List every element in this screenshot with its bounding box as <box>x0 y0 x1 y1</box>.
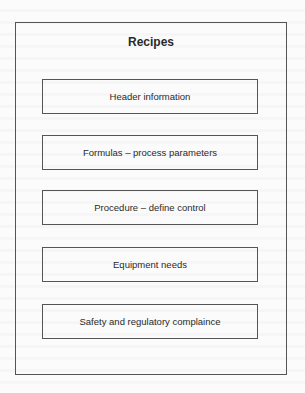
box-equipment-needs: Equipment needs <box>42 247 258 282</box>
box-header-information: Header information <box>42 79 258 114</box>
box-label: Equipment needs <box>113 259 187 270</box>
box-procedure-define-control: Procedure – define control <box>42 190 258 225</box>
page: Recipes Header information Formulas – pr… <box>0 0 305 393</box>
box-formulas-process-parameters: Formulas – process parameters <box>42 135 258 170</box>
recipes-container: Recipes Header information Formulas – pr… <box>15 22 287 375</box>
box-safety-regulatory-compliance: Safety and regulatory complaince <box>42 304 258 339</box>
box-label: Header information <box>110 91 191 102</box>
box-label: Procedure – define control <box>94 202 205 213</box>
box-label: Formulas – process parameters <box>83 147 217 158</box>
box-label: Safety and regulatory complaince <box>80 316 221 327</box>
diagram-title: Recipes <box>16 35 286 49</box>
